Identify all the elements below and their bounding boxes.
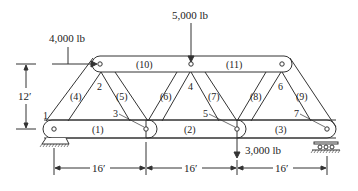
joint-label-1: 1 (43, 110, 48, 121)
member-label-11: (11) (226, 59, 242, 71)
pin-joint-1 (52, 127, 56, 131)
load-4000-arrow-icon (91, 61, 97, 67)
pin-support (40, 138, 69, 147)
member-label-10: (10) (136, 59, 153, 71)
member-label-2: (2) (184, 124, 196, 136)
load-3000-arrow-icon (234, 152, 240, 158)
member-label-9: (9) (296, 91, 308, 103)
truss-diagram: 4,000 lb 5,000 lb 3,000 lb 12′ 16′ 16′ 1… (0, 0, 358, 191)
height-dim-label: 12′ (18, 90, 31, 102)
load-label-3000: 3,000 lb (245, 144, 282, 156)
load-5000-arrow-icon (188, 56, 194, 62)
span-dim-label-2: 16′ (184, 162, 197, 174)
member-label-1: (1) (92, 124, 104, 136)
joint-label-3: 3 (113, 108, 118, 119)
member-label-5: (5) (116, 91, 128, 103)
load-label-4000: 4,000 lb (49, 32, 86, 44)
joint-label-2: 2 (97, 81, 102, 92)
member-label-4: (4) (70, 91, 82, 103)
pin-joint-5 (235, 127, 239, 131)
joint-label-7: 7 (294, 108, 299, 119)
member-label-8: (8) (250, 91, 262, 103)
joint-label-4: 4 (188, 81, 193, 92)
span-dim-label-1: 16′ (92, 162, 105, 174)
pin-joint-7 (325, 127, 329, 131)
joint-label-6: 6 (278, 81, 283, 92)
member-2 (146, 120, 246, 138)
load-label-5000: 5,000 lb (172, 9, 209, 21)
pin-joint-6 (280, 62, 284, 66)
roller-support (311, 142, 340, 153)
span-dim-label-3: 16′ (275, 162, 288, 174)
member-label-7: (7) (208, 91, 220, 103)
joint-label-5: 5 (203, 108, 208, 119)
member-label-6: (6) (160, 91, 172, 103)
pin-joint-3 (144, 127, 148, 131)
member-label-3: (3) (275, 124, 287, 136)
pin-joint-2 (98, 62, 102, 66)
